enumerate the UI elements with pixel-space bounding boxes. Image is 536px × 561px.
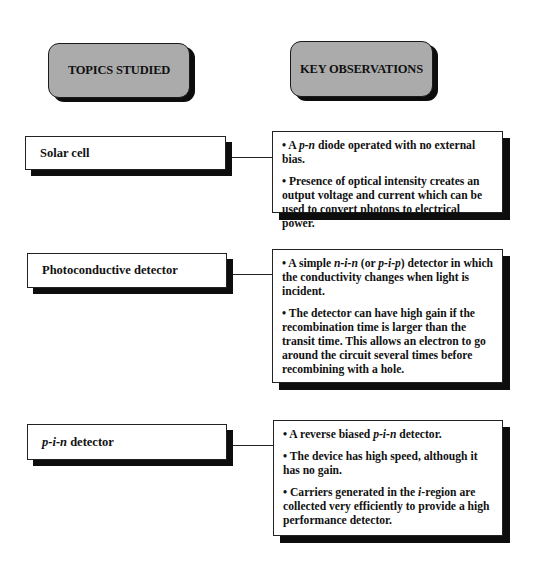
- observation-item: • Presence of optical intensity creates …: [282, 175, 494, 231]
- observation-item: • A reverse biased p-i-n detector.: [283, 428, 494, 442]
- topic-label: Photoconductive detector: [42, 263, 178, 278]
- connector-line: [232, 157, 272, 158]
- connector-line: [233, 274, 272, 275]
- connector-line: [233, 445, 273, 446]
- observation-item: • A simple n-i-n (or p-i-p) detector in …: [282, 257, 494, 299]
- observations-box-solar-cell: • A p-n diode operated with no external …: [272, 131, 503, 213]
- key-observations-header: KEY OBSERVATIONS: [290, 41, 433, 97]
- topics-studied-label: TOPICS STUDIED: [68, 63, 170, 78]
- topic-label: p-i-n detector: [42, 435, 114, 450]
- observation-item: • The detector can have high gain if the…: [282, 307, 494, 377]
- topic-box-photoconductive-detector: Photoconductive detector: [27, 253, 227, 288]
- topic-box-solar-cell: Solar cell: [25, 136, 226, 170]
- topic-label: Solar cell: [40, 146, 89, 161]
- observation-item: • Carriers generated in the i-region are…: [283, 486, 494, 528]
- topic-box-pin-detector: p-i-n detector: [27, 424, 227, 460]
- topics-studied-header: TOPICS STUDIED: [48, 43, 190, 98]
- observation-item: • A p-n diode operated with no external …: [282, 139, 494, 167]
- observations-box-photoconductive-detector: • A simple n-i-n (or p-i-p) detector in …: [272, 249, 503, 383]
- observation-item: • The device has high speed, although it…: [283, 450, 494, 478]
- observations-box-pin-detector: • A reverse biased p-i-n detector. • The…: [273, 420, 503, 536]
- key-observations-label: KEY OBSERVATIONS: [300, 62, 423, 77]
